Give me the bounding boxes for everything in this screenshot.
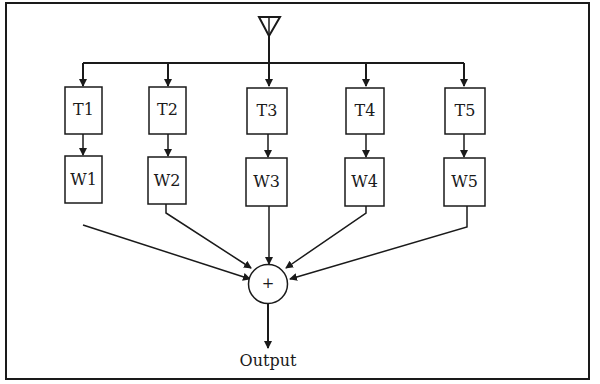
summer-plus-symbol: + [258,274,278,292]
diagram-canvas [0,0,600,384]
label-t1: T1 [65,100,102,119]
label-w5: W5 [444,172,485,191]
label-w4: W4 [345,172,384,191]
label-w2: W2 [148,171,186,190]
output-label: Output [218,351,318,370]
label-w3: W3 [246,172,287,191]
label-w1: W1 [65,170,102,189]
label-t2: T2 [149,100,186,119]
antenna-icon [259,17,280,36]
label-t4: T4 [346,101,384,120]
label-t3: T3 [247,101,287,120]
label-t5: T5 [445,101,485,120]
